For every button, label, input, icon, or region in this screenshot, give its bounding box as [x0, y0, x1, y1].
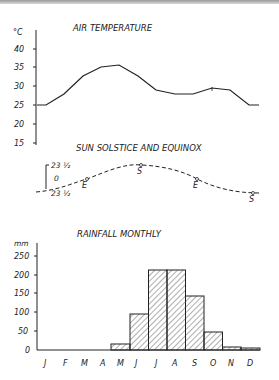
temperature-title: AIR TEMPERATURE — [72, 23, 153, 33]
svg-text:100: 100 — [14, 308, 29, 317]
svg-text:A: A — [99, 359, 105, 368]
rainfall-ticks: 250 200 150 100 50 0 — [14, 252, 37, 355]
svg-text:25: 25 — [14, 101, 24, 110]
rainfall-bars — [111, 270, 260, 350]
svg-text:J: J — [133, 359, 138, 368]
temperature-ticks: 40 35 30 25 20 15 — [14, 45, 36, 148]
svg-text:J: J — [153, 359, 158, 368]
equinox-label: E — [193, 181, 199, 190]
temperature-line — [37, 65, 259, 105]
bar-oct — [204, 332, 223, 350]
svg-text:0: 0 — [25, 346, 30, 355]
svg-text:M: M — [117, 359, 124, 368]
svg-text:23 ½: 23 ½ — [51, 161, 71, 170]
svg-text:15: 15 — [14, 139, 24, 148]
svg-text:M: M — [81, 359, 88, 368]
svg-text:S: S — [192, 359, 197, 368]
solstice-label: S — [249, 195, 254, 204]
svg-text:35: 35 — [14, 63, 24, 72]
rainfall-unit: mm — [14, 239, 29, 248]
rainfall-month-labels: J F M A M J J A S O N D — [42, 359, 253, 368]
temperature-chart: AIR TEMPERATURE °C 40 35 30 25 20 15 — [13, 23, 259, 148]
svg-text:J: J — [42, 359, 47, 368]
bar-sep — [186, 296, 205, 350]
bar-jun — [130, 314, 149, 350]
rainfall-chart: RAINFALL MONTHLY mm 250 200 150 100 50 0 — [14, 229, 260, 368]
climate-charts: AIR TEMPERATURE °C 40 35 30 25 20 15 SUN… — [0, 0, 279, 380]
svg-text:D: D — [247, 359, 253, 368]
sun-chart: SUN SOLSTICE AND EQUINOX 23 ½ 0 23 ½ E S… — [36, 143, 260, 204]
bar-nov — [223, 347, 242, 350]
bar-aug — [167, 270, 186, 350]
temperature-unit: °C — [13, 28, 23, 37]
svg-text:F: F — [63, 359, 68, 368]
svg-text:A: A — [171, 359, 177, 368]
svg-text:250: 250 — [14, 252, 29, 261]
rainfall-title: RAINFALL MONTHLY — [77, 229, 162, 239]
svg-text:30: 30 — [14, 82, 24, 91]
equinox-label: E — [82, 181, 88, 190]
svg-text:0: 0 — [54, 174, 59, 183]
svg-text:200: 200 — [14, 271, 29, 280]
bar-may — [111, 344, 130, 350]
solstice-label: S — [137, 167, 142, 176]
bar-dec — [241, 348, 260, 350]
svg-text:40: 40 — [14, 45, 24, 54]
svg-text:O: O — [210, 359, 216, 368]
svg-text:50: 50 — [18, 327, 28, 336]
svg-text:N: N — [228, 359, 234, 368]
svg-text:23 ½: 23 ½ — [51, 189, 71, 198]
svg-text:20: 20 — [14, 120, 24, 129]
svg-text:150: 150 — [14, 289, 29, 298]
bar-jul — [149, 270, 168, 350]
sun-title: SUN SOLSTICE AND EQUINOX — [76, 143, 202, 153]
